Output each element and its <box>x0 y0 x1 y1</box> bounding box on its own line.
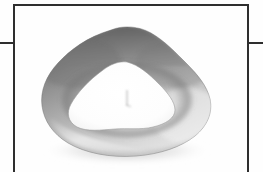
plate-frame-left <box>13 4 15 172</box>
plate-frame-right <box>247 4 249 172</box>
plate-frame-top <box>13 4 249 6</box>
specimen-stage <box>15 6 247 172</box>
figure-plate <box>0 0 263 172</box>
crop-mark-right <box>248 42 263 44</box>
specimen-illustration <box>15 6 247 172</box>
crop-mark-left <box>0 42 14 44</box>
